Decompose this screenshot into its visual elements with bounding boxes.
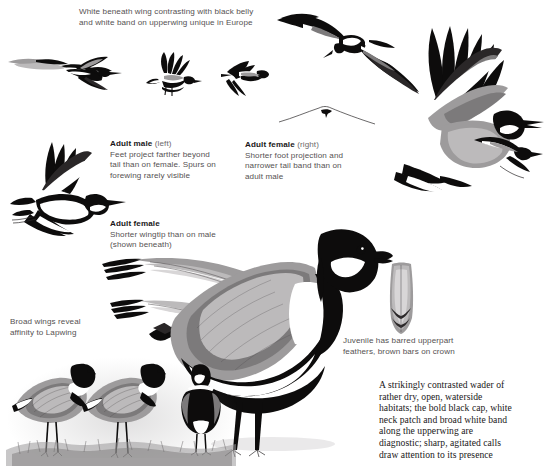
adult-female-right-caption: Adult female (right) Shorter foot projec… — [245, 140, 377, 182]
caption-line: affinity to Lapwing — [10, 328, 120, 339]
caption-line: and white band on upperwing unique in Eu… — [79, 18, 291, 29]
caption-line: adult male — [245, 172, 377, 183]
flying-bird-large-right — [382, 14, 548, 214]
caption-qualifier: (left) — [155, 139, 172, 148]
caption-line: Broad wings reveal — [10, 317, 120, 328]
blurb-line: A strikingly contrasted wader of — [379, 379, 539, 391]
blurb-line: draw attention to its presence — [379, 449, 539, 461]
caption-line: White beneath wing contrasting with blac… — [79, 7, 291, 18]
flying-bird-upper-mid — [140, 51, 202, 99]
blurb-line: diagnostic; sharp, agitated calls — [379, 437, 539, 449]
caption-line: narrower tail band than on — [245, 161, 377, 172]
caption-qualifier: (right) — [297, 140, 319, 149]
flying-bird-upper-left-pair — [6, 48, 136, 94]
species-description: A strikingly contrasted wader of rather … — [379, 379, 539, 460]
caption-heading: Adult female — [245, 140, 295, 149]
blurb-line: neck patch and broad white band — [379, 414, 539, 426]
upperwing-caption: White beneath wing contrasting with blac… — [79, 7, 291, 28]
soaring-silhouette — [277, 100, 377, 132]
blurb-line: along the upperwing are — [379, 425, 539, 437]
caption-heading-row: Adult female (right) — [245, 140, 377, 151]
flying-bird-right-edge — [470, 126, 543, 174]
flying-bird-upper-right-small — [205, 58, 273, 100]
caption-line: Shorter foot projection and — [245, 151, 377, 162]
blurb-line: rather dry, open, waterside — [379, 391, 539, 403]
ground-bank — [6, 430, 236, 466]
broad-wings-caption: Broad wings reveal affinity to Lapwing — [10, 317, 120, 338]
flying-bird-left-spread — [8, 134, 130, 238]
blurb-line: habitats; the bold black cap, white — [379, 402, 539, 414]
